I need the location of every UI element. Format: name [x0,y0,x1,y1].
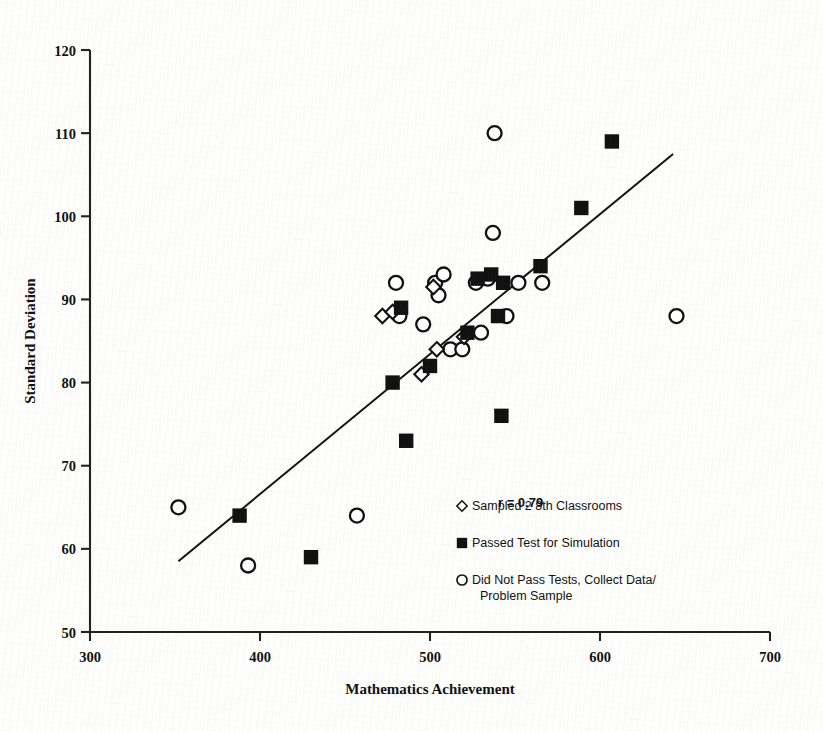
x-tick-label: 300 [79,649,101,665]
data-point [533,259,547,273]
data-point [350,509,364,523]
data-point [474,326,488,340]
data-point [437,267,451,281]
legend-label-cont: Problem Sample [480,589,572,603]
data-point [460,325,474,339]
y-tick-label: 90 [62,292,77,308]
data-point [511,276,525,290]
y-tick-label: 80 [62,375,77,391]
x-tick-label: 400 [249,649,271,665]
y-tick-label: 100 [54,209,76,225]
legend-item-0: Sampled 2 8th Classrooms [457,499,622,513]
data-point [670,309,684,323]
data-point [574,201,588,215]
data-point [416,317,430,331]
x-tick-label: 600 [589,649,611,665]
legend-item-1: Passed Test for Simulation [457,536,620,550]
data-point [171,500,185,514]
y-axis-label: Standard Deviation [22,278,38,404]
x-tick-label: 700 [759,649,781,665]
data-point [394,301,408,315]
legend-marker-open-diamond [457,501,467,511]
legend-label: Sampled 2 8th Classrooms [472,499,622,513]
data-point [488,126,502,140]
legend-marker-filled-square [457,538,467,548]
data-point [486,226,500,240]
data-point [385,375,399,389]
y-tick-label: 120 [54,43,76,59]
y-tick-label: 60 [62,541,77,557]
data-point [241,558,255,572]
axes: 5060708090100110120300400500600700 [54,43,781,666]
chart-legend: Sampled 2 8th ClassroomsPassed Test for … [457,499,657,603]
chart-canvas: 5060708090100110120300400500600700 r = 0… [0,0,823,731]
data-point [304,550,318,564]
x-axis-label: Mathematics Achievement [345,681,515,697]
data-point [494,409,508,423]
legend-marker-open-circle [457,575,467,585]
y-tick-label: 50 [62,625,77,641]
y-tick-label: 70 [62,458,77,474]
legend-item-2: Did Not Pass Tests, Collect Data/Problem… [457,573,656,603]
legend-label: Passed Test for Simulation [472,536,620,550]
legend-label: Did Not Pass Tests, Collect Data/ [472,573,656,587]
data-point [423,359,437,373]
scatter-chart: 5060708090100110120300400500600700 r = 0… [0,0,823,731]
data-point [399,434,413,448]
data-point [535,276,549,290]
data-point [496,276,510,290]
x-tick-label: 500 [419,649,441,665]
y-tick-label: 110 [55,126,76,142]
data-point [232,508,246,522]
data-point [455,342,469,356]
data-point [605,134,619,148]
data-point [389,276,403,290]
data-point [491,309,505,323]
data-point [470,271,484,285]
